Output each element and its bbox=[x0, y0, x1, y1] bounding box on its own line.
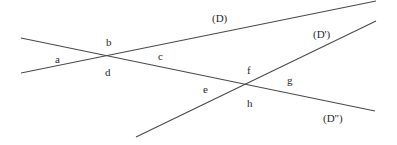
angle-label-g: g bbox=[287, 74, 293, 86]
line-label-D-double-prime: (D") bbox=[323, 112, 343, 125]
diagram-canvas: (D)(D')(D") abcdefgh bbox=[0, 0, 397, 145]
angle-label-b: b bbox=[106, 36, 112, 48]
angle-label-c: c bbox=[158, 50, 163, 62]
line-label-D: (D) bbox=[212, 12, 228, 25]
angle-label-f: f bbox=[247, 64, 251, 76]
angle-label-d: d bbox=[105, 66, 111, 78]
line-D-double-prime bbox=[21, 38, 375, 111]
geometry-diagram: (D)(D')(D") abcdefgh bbox=[0, 0, 397, 145]
angle-label-h: h bbox=[247, 97, 253, 109]
angle-label-e: e bbox=[203, 83, 208, 95]
angle-labels-group: abcdefgh bbox=[55, 36, 293, 109]
angle-label-a: a bbox=[55, 53, 60, 65]
line-label-D-prime: (D') bbox=[313, 28, 331, 41]
